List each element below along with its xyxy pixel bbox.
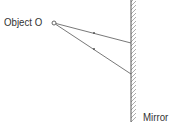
mirror-hatching: [131, 0, 136, 122]
object-point-icon: [52, 21, 56, 25]
ray-1-arrow-icon: [93, 32, 95, 34]
ray-2-arrow-icon: [93, 48, 95, 50]
mirror-label: Mirror: [143, 111, 168, 123]
object-label: Object O: [4, 16, 42, 28]
